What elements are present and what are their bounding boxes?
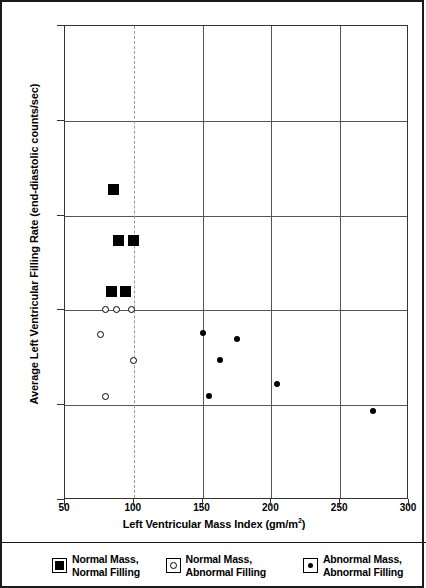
- legend-label-line1: Abnormal Mass,: [323, 553, 403, 566]
- x-axis-tick-mark: [408, 499, 409, 506]
- x-axis-title: Left Ventricular Mass Index (gm/m2): [2, 517, 426, 530]
- gridline-vertical: [340, 26, 341, 498]
- gridline-horizontal: [65, 121, 407, 122]
- y-axis-tick-mark: [57, 120, 64, 121]
- data-point: [106, 286, 117, 297]
- legend-label-line2: Normal Filling: [72, 566, 140, 579]
- data-point: [200, 330, 206, 336]
- data-point: [108, 184, 119, 195]
- gridline-horizontal: [65, 405, 407, 406]
- data-point: [274, 381, 280, 387]
- data-point: [234, 336, 240, 342]
- data-point: [128, 235, 139, 246]
- x-axis-tick-mark: [202, 499, 203, 506]
- x-axis-title-paren: ): [302, 518, 306, 530]
- legend-item: Normal Mass,Abnormal Filling: [166, 553, 303, 578]
- legend-marker-icon: [166, 558, 181, 573]
- data-point: [102, 393, 109, 400]
- legend-label: Normal Mass,Abnormal Filling: [186, 553, 266, 578]
- data-point: [120, 286, 131, 297]
- data-point: [97, 331, 104, 338]
- data-point: [102, 306, 109, 313]
- legend-label: Abnormal Mass,Abnormal Filling: [323, 553, 403, 578]
- data-point: [113, 306, 120, 313]
- legend-item: Normal Mass,Normal Filling: [12, 553, 166, 578]
- y-axis-tick-mark: [57, 499, 64, 500]
- legend-label-line1: Normal Mass,: [186, 553, 266, 566]
- legend-label-line2: Abnormal Filling: [186, 566, 266, 579]
- y-axis-tick-mark: [57, 25, 64, 26]
- filled-dot-swatch-icon: [308, 563, 313, 568]
- data-point: [206, 393, 212, 399]
- gridline-vertical: [203, 26, 204, 498]
- legend-item: Abnormal Mass,Abnormal Filling: [303, 553, 416, 578]
- x-axis-title-text: Left Ventricular Mass Index (gm/m: [123, 518, 298, 530]
- filled-square-swatch-icon: [55, 561, 64, 570]
- x-axis-tick-mark: [64, 499, 65, 506]
- y-axis-tick-mark: [57, 215, 64, 216]
- legend-marker-icon: [52, 558, 67, 573]
- x-axis-tick-mark: [133, 499, 134, 506]
- legend-label: Normal Mass,Normal Filling: [72, 553, 140, 578]
- x-axis-tick-mark: [270, 499, 271, 506]
- y-axis-tick-mark: [57, 309, 64, 310]
- data-point: [113, 235, 124, 246]
- data-point: [217, 357, 223, 363]
- data-point: [370, 408, 376, 414]
- gridline-horizontal: [65, 216, 407, 217]
- open-circle-swatch-icon: [170, 562, 177, 569]
- legend-marker-icon: [303, 558, 318, 573]
- chart-legend: Normal Mass,Normal FillingNormal Mass,Ab…: [2, 542, 426, 588]
- gridline-vertical: [271, 26, 272, 498]
- plot-area: [64, 25, 408, 499]
- data-point: [130, 357, 137, 364]
- y-axis-title: Average Left Ventricular Filling Rate (e…: [28, 64, 40, 424]
- y-axis-tick-mark: [57, 404, 64, 405]
- gridline-vertical: [134, 26, 135, 498]
- x-axis-tick-mark: [339, 499, 340, 506]
- legend-label-line2: Abnormal Filling: [323, 566, 403, 579]
- legend-label-line1: Normal Mass,: [72, 553, 140, 566]
